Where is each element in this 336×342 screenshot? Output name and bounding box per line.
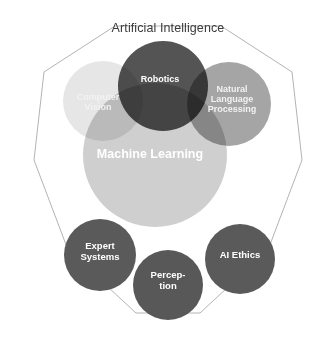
page-title: Artificial Intelligence	[0, 21, 336, 35]
diagram-canvas	[0, 0, 336, 342]
ai-venn-diagram: Artificial Intelligence Robotics Compute…	[0, 0, 336, 342]
circle-expert-systems	[64, 219, 136, 291]
circle-ai-ethics	[205, 224, 275, 294]
circle-robotics	[118, 41, 208, 131]
circle-perception	[133, 250, 203, 320]
